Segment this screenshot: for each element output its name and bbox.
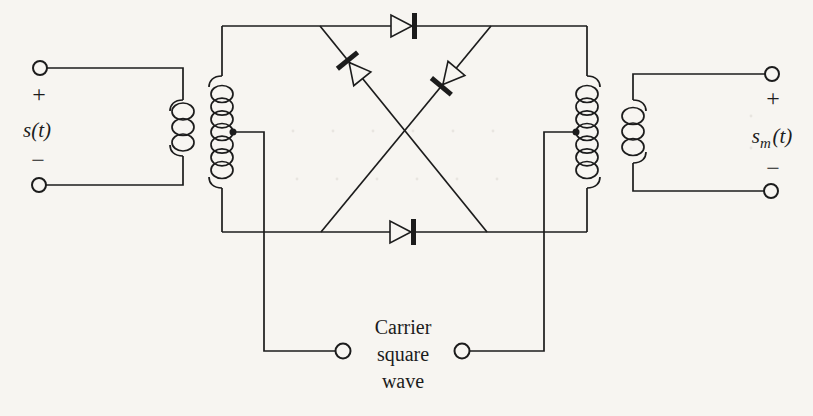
input-terminal-top-icon (33, 61, 47, 75)
input-minus-label: − (31, 148, 45, 172)
output-signal-label: sm (t) (752, 126, 793, 147)
carrier-terminal-left-icon (336, 344, 351, 359)
center-tap-right-junction-dot-icon (573, 129, 580, 136)
wire-carrier-right (470, 132, 576, 351)
center-tap-left-junction-dot-icon (230, 129, 237, 136)
wire-output-top (633, 74, 765, 100)
circuit-figure: + s(t) − + sm (t) − Carrier square wave (0, 0, 813, 416)
diode-cross-right-icon (431, 60, 466, 95)
wire-input-bottom (46, 156, 183, 185)
diode-top-icon (391, 13, 415, 39)
wire-ring-diagonal-right (321, 26, 491, 232)
input-terminal-bottom-icon (32, 178, 46, 192)
output-terminal-bottom-icon (764, 184, 778, 198)
output-transformer-secondary-coil (576, 26, 600, 232)
input-plus-label: + (32, 82, 46, 106)
wire-ring-diagonal-left (320, 26, 487, 232)
carrier-label-line1: Carrier (375, 314, 432, 341)
output-transformer-primary-coil (622, 100, 646, 163)
carrier-label-line2: square (375, 341, 432, 368)
wire-output-bottom (633, 163, 764, 191)
input-source-wiring (46, 68, 183, 185)
diode-ring-wiring (222, 26, 587, 232)
diode-bottom-icon (390, 219, 414, 245)
input-transformer-primary-coil (170, 100, 194, 156)
output-signal-args: (t) (772, 124, 792, 148)
output-minus-label: − (766, 156, 780, 180)
carrier-terminal-right-icon (455, 344, 470, 359)
output-terminal-top-icon (765, 67, 779, 81)
input-transformer-secondary-coil (209, 26, 233, 232)
output-signal-base: s (752, 124, 760, 148)
output-plus-label: + (766, 86, 780, 110)
carrier-label: Carrier square wave (375, 314, 432, 395)
output-signal-subscript: m (760, 135, 771, 151)
carrier-label-line3: wave (375, 368, 432, 395)
wire-input-top (47, 68, 183, 100)
scan-speckles (292, 115, 753, 181)
input-signal-label: s(t) (23, 120, 51, 141)
diode-cross-left-icon (337, 52, 372, 87)
wire-carrier-left (233, 132, 335, 351)
output-load-wiring (633, 74, 765, 191)
